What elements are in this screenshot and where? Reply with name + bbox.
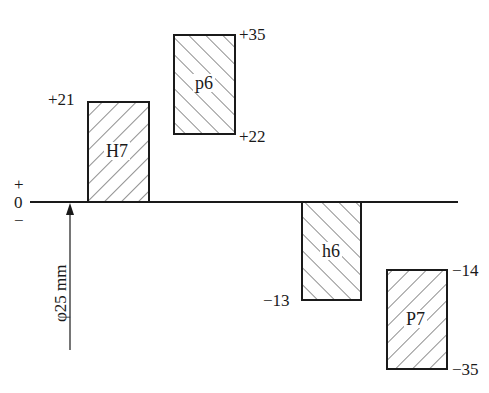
axis-minus-sign: − <box>14 212 24 229</box>
p6-upper-deviation: +35 <box>239 26 266 43</box>
axis-zero-label: 0 <box>14 194 23 211</box>
zone-H7-label: H7 <box>104 142 130 160</box>
basic-size-label: φ25 mm <box>51 264 71 322</box>
p6-lower-deviation: +22 <box>239 128 266 145</box>
zone-p6-label: p6 <box>193 74 215 92</box>
H7-upper-deviation: +21 <box>48 91 75 108</box>
arrow-up-icon <box>66 203 74 215</box>
zone-P7-label: P7 <box>404 310 427 328</box>
tolerance-diagram-canvas <box>0 0 489 393</box>
P7-upper-deviation: −14 <box>452 262 479 279</box>
zone-h6-label: h6 <box>320 242 342 260</box>
P7-lower-deviation: −35 <box>452 361 479 378</box>
h6-lower-deviation: −13 <box>263 292 290 309</box>
axis-plus-sign: + <box>14 176 24 193</box>
